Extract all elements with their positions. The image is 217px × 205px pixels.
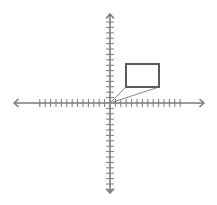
coordinate-plane-svg <box>0 0 217 205</box>
coordinate-plane-diagram <box>0 0 217 205</box>
rays-from-origin <box>110 87 159 103</box>
rectangle-shape <box>126 64 159 87</box>
